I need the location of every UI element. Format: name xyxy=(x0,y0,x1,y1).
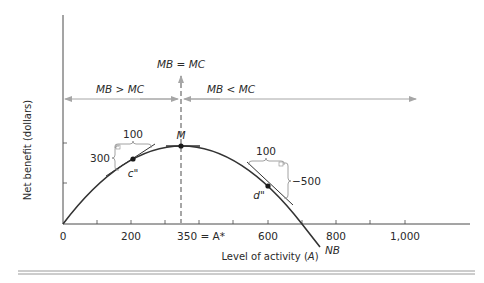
point-m-label: M xyxy=(176,129,185,141)
c-rise-bracket xyxy=(112,146,119,170)
d-rise-bracket xyxy=(284,163,291,198)
mb-gt-mc-label: MB > MC xyxy=(96,83,145,95)
d-rise-label: −500 xyxy=(292,175,321,187)
c-rise-label: 300 xyxy=(90,152,110,164)
x-axis-title: Level of activity (A) xyxy=(221,251,318,262)
x-tick-label-800: 800 xyxy=(326,230,346,242)
point-c-label: c" xyxy=(128,167,139,179)
x-tick-label-0: 0 xyxy=(60,230,67,242)
point-m xyxy=(178,143,183,148)
mb-eq-mc-label: MB = MC xyxy=(157,58,206,70)
d-run-label: 100 xyxy=(256,145,276,157)
net-benefit-chart: 0 200 350 = A* 600 800 1,000 Level of ac… xyxy=(0,0,484,283)
d-right-angle xyxy=(279,162,283,166)
y-axis-title: Net benefit (dollars) xyxy=(22,100,33,200)
x-tick-label-600: 600 xyxy=(258,230,278,242)
nb-curve-label: NB xyxy=(325,244,340,256)
c-run-bracket xyxy=(115,141,151,148)
x-tick-label-200: 200 xyxy=(121,230,141,242)
mb-lt-mc-label: MB < MC xyxy=(207,83,256,95)
x-tick-label-350: 350 = A* xyxy=(177,230,225,242)
x-ticks xyxy=(97,220,405,224)
x-tick-label-1000: 1,000 xyxy=(390,230,420,242)
c-run-label: 100 xyxy=(123,128,143,140)
point-c xyxy=(130,156,135,161)
point-d xyxy=(265,183,270,188)
point-d-label: d" xyxy=(253,189,265,201)
